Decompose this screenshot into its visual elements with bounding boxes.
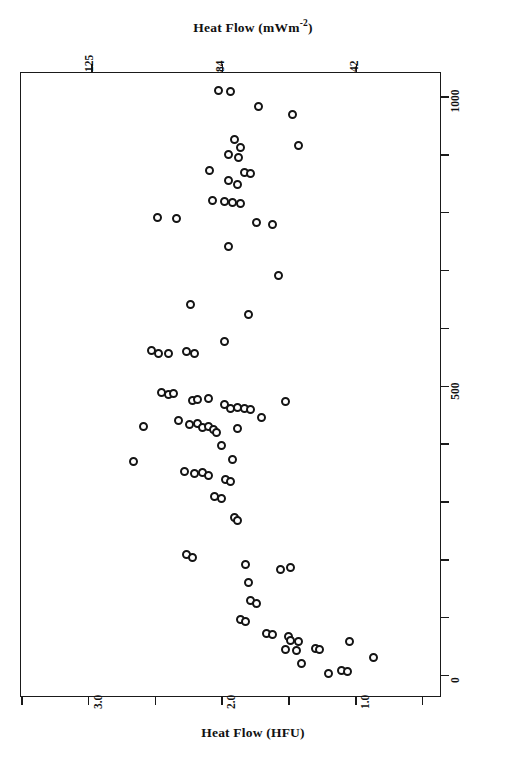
data-point [281,645,290,654]
data-point [286,563,295,572]
data-point [345,637,354,646]
data-point [224,242,233,251]
bottom-axis-tick [88,696,90,705]
data-point [172,214,181,223]
data-point [217,494,226,503]
right-axis-tick [440,559,449,561]
right-axis-tick [440,386,449,388]
right-axis-tick [440,154,449,156]
data-point [297,659,306,668]
data-point [204,471,213,480]
bottom-axis-tick-label: 2.0 [225,695,237,709]
plot-area [20,72,441,697]
data-point [268,220,277,229]
data-point [188,553,197,562]
data-point [246,169,255,178]
data-point [324,669,333,678]
right-axis-tick-label: 0 [449,677,461,683]
data-point [292,646,301,655]
data-point [244,310,253,319]
right-axis-tick [440,96,449,98]
heat-flow-scatter-figure: Heat Flow (mWm-2) Heat Flow (HFU) Distan… [0,0,506,757]
data-point [164,349,173,358]
data-point [246,405,255,414]
data-point [274,271,283,280]
top-axis-title: Heat Flow (mWm-2) [0,18,506,36]
top-axis-title-superscript: -2 [300,18,308,28]
bottom-axis-tick [21,696,23,705]
right-axis-tick [440,501,449,503]
data-point [217,441,226,450]
top-axis-tick-label: 125 [83,55,95,72]
right-axis-tick [440,328,449,330]
data-point [169,389,178,398]
data-point [241,617,250,626]
data-point [190,349,199,358]
bottom-axis-tick [422,696,424,705]
data-point [226,477,235,486]
bottom-axis-tick [221,696,223,705]
bottom-axis-tick-label: 1.0 [359,695,371,709]
data-point [228,455,237,464]
bottom-axis-title: Heat Flow (HFU) [0,725,506,741]
data-point [205,166,214,175]
right-axis-tick [440,212,449,214]
right-axis-tick-label: 1000 [449,90,461,113]
data-point [180,467,189,476]
data-point [212,428,221,437]
bottom-axis-tick-label: 3.0 [92,695,104,709]
data-point [236,143,245,152]
data-point [254,102,263,111]
right-axis-tick [440,270,449,272]
data-point [220,337,229,346]
data-point [241,560,250,569]
right-axis-tick [440,617,449,619]
data-point [224,176,233,185]
data-point [186,300,195,309]
data-point [224,150,233,159]
data-point [294,141,303,150]
top-axis-title-main: Heat Flow (mWm [193,20,299,35]
data-point [244,578,253,587]
top-axis-tick-label: 84 [214,61,226,73]
top-axis-tick-label: 42 [348,61,360,73]
data-point [343,667,352,676]
data-point [257,413,266,422]
data-point [369,653,378,662]
right-axis-tick [440,443,449,445]
data-point [233,424,242,433]
data-point [208,196,217,205]
data-point [153,213,162,222]
data-point [234,153,243,162]
data-point [233,180,242,189]
data-point [174,416,183,425]
data-point [268,630,277,639]
data-point [226,87,235,96]
data-point [193,395,202,404]
data-point [139,422,148,431]
bottom-axis-tick [155,696,157,705]
bottom-axis-tick [355,696,357,705]
data-point [276,565,285,574]
data-point [236,199,245,208]
right-axis-tick-label: 500 [449,382,461,399]
data-point [154,349,163,358]
data-point [252,218,261,227]
bottom-axis-tick [288,696,290,705]
data-point [129,457,138,466]
data-point [214,86,223,95]
data-point [288,110,297,119]
data-point [315,645,324,654]
right-axis-tick [440,675,449,677]
data-point [233,516,242,525]
data-point [294,637,303,646]
data-point [281,397,290,406]
top-axis-title-close: ) [308,20,313,35]
data-point [204,394,213,403]
data-point [252,599,261,608]
